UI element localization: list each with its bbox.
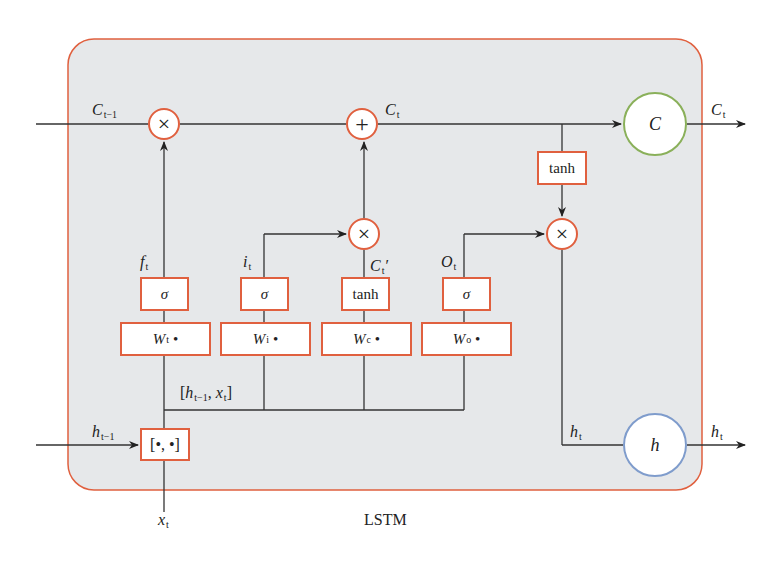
hidden-state-node: h <box>623 413 687 477</box>
output-sigma-box: σ <box>442 277 491 311</box>
label-f-t: ft <box>140 254 148 272</box>
diagram-caption: LSTM <box>364 512 407 528</box>
label-c-t-mid: Ct <box>385 102 399 120</box>
plus-icon: + <box>355 111 369 138</box>
input-multiply-node: × <box>348 218 380 250</box>
input-sigma-box: σ <box>240 277 289 311</box>
label-h-t-inner: ht <box>570 424 582 442</box>
label-concat: [ht−1, xt] <box>180 385 232 403</box>
label-x-t: xt <box>158 512 169 530</box>
weight-box-forget: Wt • <box>120 322 211 356</box>
weight-box-candidate: Wc • <box>321 322 412 356</box>
label-c-t-prime: Ct′ <box>370 258 388 276</box>
forget-sigma-box: σ <box>140 277 189 311</box>
label-c-t-out: Ct <box>711 102 725 120</box>
weight-box-output: Wo • <box>421 322 512 356</box>
cell-output-tanh-box: tanh <box>537 151 587 185</box>
cell-add-node: + <box>346 108 378 140</box>
forget-multiply-node: × <box>148 108 180 140</box>
multiply-icon: × <box>358 221 370 247</box>
multiply-icon: × <box>158 111 170 137</box>
output-multiply-node: × <box>546 218 578 250</box>
cell-state-node: C <box>623 92 687 156</box>
label-i-t: it <box>243 254 251 272</box>
weight-box-input: Wi • <box>220 322 311 356</box>
label-h-t-out: ht <box>711 424 723 442</box>
label-h-prev: ht−1 <box>92 424 114 442</box>
multiply-icon: × <box>556 221 568 247</box>
concat-box: [•, •] <box>140 428 190 461</box>
label-o-t: Ot <box>441 254 456 272</box>
candidate-tanh-box: tanh <box>341 277 390 311</box>
label-c-prev: Ct−1 <box>92 102 117 120</box>
